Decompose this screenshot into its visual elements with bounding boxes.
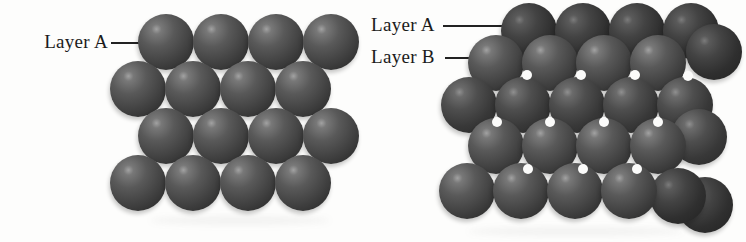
packing-hole bbox=[632, 164, 642, 174]
figure-canvas: Layer A Layer A Layer B bbox=[0, 0, 746, 242]
sphere-layer-a-row-3 bbox=[439, 163, 495, 219]
sphere-edge-sphere-1 bbox=[686, 24, 742, 80]
packing-hole bbox=[492, 117, 502, 127]
scan-smudge bbox=[150, 216, 330, 225]
packing-hole bbox=[599, 117, 609, 127]
packing-hole bbox=[545, 117, 555, 127]
sphere-layer-a-row-3 bbox=[601, 163, 657, 219]
packing-hole bbox=[523, 164, 533, 174]
packing-hole bbox=[683, 71, 693, 81]
packing-hole bbox=[630, 70, 640, 80]
packing-hole bbox=[522, 70, 532, 80]
sphere-layer-a-row-3 bbox=[547, 163, 603, 219]
sphere-edge-sphere-4 bbox=[650, 168, 706, 224]
packing-hole bbox=[578, 164, 588, 174]
packing-hole bbox=[653, 117, 663, 127]
two-layer-diagram bbox=[0, 0, 746, 242]
sphere-layer-a-row-3 bbox=[493, 163, 549, 219]
scan-smudge bbox=[468, 227, 683, 236]
packing-hole bbox=[576, 70, 586, 80]
